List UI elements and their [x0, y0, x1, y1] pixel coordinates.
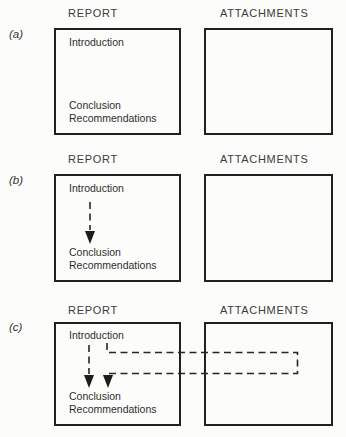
attachments-box-c [204, 322, 333, 426]
section-label-a: (a) [9, 28, 23, 40]
attachments-header-c: ATTACHMENTS [220, 304, 309, 316]
report-header-a: REPORT [68, 7, 118, 19]
report-header-b: REPORT [68, 153, 118, 165]
conclusion-text-c: Conclusion [69, 390, 157, 403]
figure-canvas: REPORT ATTACHMENTS (a) Introduction Conc… [0, 0, 346, 437]
attachments-header-b: ATTACHMENTS [220, 153, 309, 165]
attachments-box-b [204, 174, 333, 282]
introduction-text-b: Introduction [69, 182, 124, 194]
introduction-text-c: Introduction [69, 329, 124, 341]
report-header-c: REPORT [68, 304, 118, 316]
recommendations-text-c: Recommendations [69, 403, 157, 416]
attachments-header-a: ATTACHMENTS [220, 7, 309, 19]
introduction-text-a: Introduction [69, 36, 124, 48]
conclusion-block-a: Conclusion Recommendations [69, 99, 157, 124]
conclusion-block-b: Conclusion Recommendations [69, 246, 157, 271]
section-label-b: (b) [9, 174, 23, 186]
section-label-c: (c) [9, 321, 22, 333]
conclusion-block-c: Conclusion Recommendations [69, 390, 157, 415]
attachments-box-a [204, 28, 333, 135]
conclusion-text-b: Conclusion [69, 246, 157, 259]
recommendations-text-a: Recommendations [69, 112, 157, 125]
conclusion-text-a: Conclusion [69, 99, 157, 112]
recommendations-text-b: Recommendations [69, 259, 157, 272]
